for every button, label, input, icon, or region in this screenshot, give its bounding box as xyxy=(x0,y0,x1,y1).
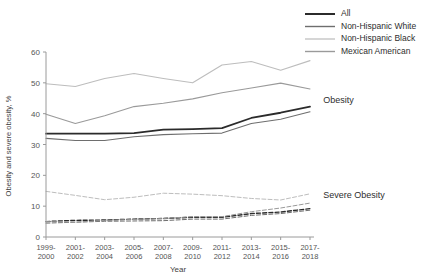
obesity-trend-line-chart: AllNon-Hispanic WhiteNon-Hispanic BlackM… xyxy=(0,0,434,277)
y-axis-title: Obesity and severe obesity, % xyxy=(4,95,13,196)
series-line xyxy=(46,112,310,141)
plot-annotation: Severe Obesity xyxy=(323,190,385,200)
y-tick-label: 10 xyxy=(31,202,40,211)
x-tick-label: 2009- xyxy=(183,243,203,252)
x-tick-label: 2002 xyxy=(67,252,84,261)
series-line xyxy=(46,191,310,200)
y-tick-label: 50 xyxy=(31,79,40,88)
x-tick-label: 2007- xyxy=(154,243,174,252)
legend-label: Non-Hispanic Black xyxy=(341,33,416,43)
series-line xyxy=(46,107,310,134)
y-tick-label: 0 xyxy=(36,233,41,242)
x-tick-label: 2011- xyxy=(213,243,232,252)
x-tick-label: 2001- xyxy=(66,243,86,252)
plot-area xyxy=(46,61,310,224)
x-tick-label: 2006 xyxy=(126,252,143,261)
chart-legend: AllNon-Hispanic WhiteNon-Hispanic BlackM… xyxy=(305,8,416,56)
x-tick-label: 2005- xyxy=(124,243,144,252)
x-tick-label: 2018 xyxy=(302,252,319,261)
x-tick-label: 2012 xyxy=(214,252,231,261)
y-tick-label: 40 xyxy=(31,110,40,119)
x-tick-label: 2016 xyxy=(272,252,289,261)
x-tick-label: 2017- xyxy=(300,243,320,252)
y-tick-label: 60 xyxy=(31,48,40,57)
plot-annotation: Obesity xyxy=(323,95,354,105)
x-tick-label: 2010 xyxy=(184,252,201,261)
series-line xyxy=(46,83,310,123)
x-tick-label: 2014 xyxy=(243,252,260,261)
series-line xyxy=(46,61,310,87)
chart-figure: AllNon-Hispanic WhiteNon-Hispanic BlackM… xyxy=(0,0,434,277)
x-tick-label: 2003- xyxy=(95,243,115,252)
x-tick-label: 2004 xyxy=(96,252,113,261)
x-tick-label: 2008 xyxy=(155,252,172,261)
y-tick-label: 30 xyxy=(31,141,40,150)
y-tick-label: 20 xyxy=(31,171,40,180)
x-axis-title: Year xyxy=(170,265,187,274)
x-tick-label: 2000 xyxy=(38,252,55,261)
x-tick-label: 1999- xyxy=(36,243,56,252)
legend-label: All xyxy=(341,8,351,18)
legend-label: Non-Hispanic White xyxy=(341,21,416,31)
series-group-annotations: ObesitySevere Obesity xyxy=(323,95,385,201)
x-tick-label: 2013- xyxy=(242,243,262,252)
legend-label: Mexican American xyxy=(341,46,411,56)
x-tick-label: 2015- xyxy=(271,243,291,252)
